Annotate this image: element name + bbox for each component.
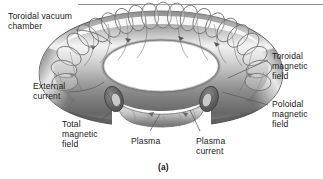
figure-caption: (a) <box>158 162 169 172</box>
label-toroidal-vacuum-chamber: Toroidal vacuumchamber <box>8 11 72 31</box>
tokamak-diagram: Toroidal vacuumchamber Externalcurrent T… <box>0 0 323 179</box>
label-external-current: Externalcurrent <box>33 81 65 101</box>
label-plasma: Plasma <box>131 136 160 146</box>
label-plasma-current: Plasmacurrent <box>196 136 225 156</box>
label-toroidal-magnetic-field: Toroidalmagneticfield <box>272 51 308 82</box>
label-total-magnetic-field: Totalmagneticfield <box>62 119 98 150</box>
label-poloidal-magnetic-field: Poloidalmagneticfield <box>272 99 308 130</box>
torus-group <box>39 2 283 131</box>
